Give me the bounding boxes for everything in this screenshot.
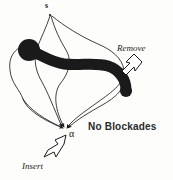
figure-canvas: s α Remove Insert No Blockades: [0, 0, 173, 180]
source-node-label: s: [45, 2, 48, 10]
sink-node-label: α: [69, 129, 74, 139]
edge-far-right-loop: [68, 74, 125, 128]
remove-label: Remove: [117, 44, 145, 53]
augmenting-path: [29, 50, 126, 90]
flow-network-drawing: [0, 0, 173, 180]
insert-label: Insert: [22, 162, 43, 171]
network-edges: [10, 16, 125, 128]
augmenting-path-head-blob: [18, 39, 40, 61]
edge-lower-left-connector: [23, 99, 61, 127]
remove-arrow-icon: [122, 54, 142, 75]
insert-arrow-icon: [44, 135, 66, 157]
augmenting-path-tail-tip: [120, 85, 132, 97]
edge-s-left-outer: [35, 16, 62, 127]
edge-inner-middle: [51, 16, 69, 127]
no-blockades-label: No Blockades: [88, 122, 157, 132]
source-node: [49, 14, 51, 16]
